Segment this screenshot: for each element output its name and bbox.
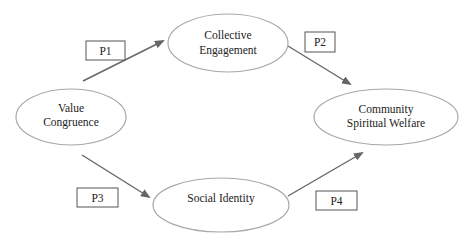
node-community-spiritual-welfare-line2: Spiritual Welfare xyxy=(347,117,425,130)
node-collective-engagement-line2: Engagement xyxy=(199,44,257,57)
edge-label-p2: P2 xyxy=(305,32,335,52)
node-community-spiritual-welfare: Community Spiritual Welfare xyxy=(314,89,458,145)
edge-label-p4: P4 xyxy=(316,191,357,210)
edge-label-p2-text: P2 xyxy=(314,36,326,48)
node-value-congruence-line1: Value xyxy=(58,102,84,114)
edge-label-p3-text: P3 xyxy=(91,192,103,204)
edge-label-p4-text: P4 xyxy=(330,195,342,207)
research-model-diagram: P1 P2 P3 P4 Value Congruence Collective … xyxy=(0,0,476,239)
node-community-spiritual-welfare-line1: Community xyxy=(359,103,414,116)
node-value-congruence: Value Congruence xyxy=(16,89,126,145)
node-value-congruence-line2: Congruence xyxy=(43,116,99,129)
node-collective-engagement: Collective Engagement xyxy=(168,14,288,72)
edge-label-p1: P1 xyxy=(86,41,125,60)
edge-label-p1-text: P1 xyxy=(99,45,111,57)
arrow-p4 xyxy=(288,153,362,196)
node-social-identity: Social Identity xyxy=(153,178,289,232)
node-collective-engagement-line1: Collective xyxy=(204,29,251,41)
node-social-identity-line1: Social Identity xyxy=(187,192,255,205)
edge-label-p3: P3 xyxy=(77,188,118,207)
